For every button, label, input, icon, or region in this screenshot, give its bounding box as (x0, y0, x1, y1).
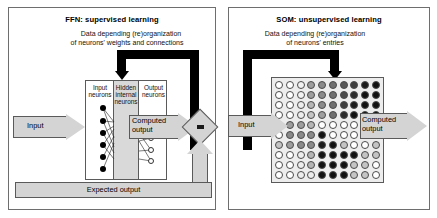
som-cell (306, 130, 317, 140)
som-neuron-dot (318, 81, 326, 89)
som-neuron-dot (286, 161, 294, 169)
som-neuron-dot (340, 141, 348, 149)
som-neuron-dot (340, 111, 348, 119)
som-neuron-dot (286, 91, 294, 99)
som-cell (360, 150, 371, 160)
som-neuron-dot (350, 81, 358, 89)
som-neuron-dot (340, 161, 348, 169)
som-neuron-dot (361, 151, 369, 159)
som-cell (317, 100, 328, 110)
som-neuron-dot (361, 81, 369, 89)
som-cell (338, 120, 349, 130)
som-cell (338, 170, 349, 180)
som-cell (295, 170, 306, 180)
som-cell (338, 80, 349, 90)
ffn-input-arrow: Input (13, 116, 85, 138)
som-neuron-dot (329, 101, 337, 109)
som-neuron-dot (307, 141, 315, 149)
som-cell (317, 80, 328, 90)
som-neuron-dot (350, 91, 358, 99)
som-neuron-dot (329, 151, 337, 159)
som-neuron-dot (372, 101, 380, 109)
som-neuron-dot (340, 131, 348, 139)
som-neuron-dot (340, 101, 348, 109)
som-cell (360, 140, 371, 150)
som-cell (274, 90, 285, 100)
som-cell (338, 130, 349, 140)
som-cell (317, 90, 328, 100)
som-neuron-dot (286, 151, 294, 159)
som-neuron-dot (286, 101, 294, 109)
som-cell (349, 150, 360, 160)
som-neuron-dot (318, 141, 326, 149)
som-cell (349, 80, 360, 90)
ffn-input-node (100, 118, 106, 124)
som-neuron-dot (329, 81, 337, 89)
som-neuron-dot (340, 121, 348, 129)
ffn-input-node (100, 154, 106, 160)
som-neuron-dot (318, 121, 326, 129)
som-neuron-dot (318, 151, 326, 159)
som-neuron-dot (361, 101, 369, 109)
som-cell (360, 80, 371, 90)
som-neuron-dot (329, 141, 337, 149)
ffn-input-node (100, 142, 106, 148)
som-neuron-dot (372, 171, 380, 179)
som-cell (327, 100, 338, 110)
som-neuron-dot (318, 91, 326, 99)
som-neuron-dot (286, 171, 294, 179)
som-cell (349, 130, 360, 140)
som-neuron-dot (372, 91, 380, 99)
panel-ffn-title: FFN: supervised learning (9, 15, 215, 24)
som-neuron-dot (307, 171, 315, 179)
som-neuron-dot (350, 151, 358, 159)
som-cell (370, 170, 381, 180)
som-neuron-dot (361, 161, 369, 169)
som-cell (327, 90, 338, 100)
som-cell (295, 130, 306, 140)
som-neuron-dot (372, 161, 380, 169)
som-cell (295, 110, 306, 120)
ffn-expected-feedback-arrow (188, 141, 212, 183)
som-cell (327, 140, 338, 150)
som-cell (349, 90, 360, 100)
som-neuron-dot (350, 121, 358, 129)
som-neuron-dot (318, 101, 326, 109)
som-neuron-dot (350, 161, 358, 169)
som-neuron-dot (307, 131, 315, 139)
som-neuron-dot (297, 141, 305, 149)
som-neuron-dot (350, 141, 358, 149)
som-cell (295, 140, 306, 150)
som-cell (327, 150, 338, 160)
comparator-equals-icon (197, 125, 204, 129)
som-cell (327, 80, 338, 90)
som-cell (370, 90, 381, 100)
som-cell (317, 120, 328, 130)
som-cell (327, 160, 338, 170)
som-neuron-dot (372, 151, 380, 159)
som-cell (306, 140, 317, 150)
som-cell (349, 140, 360, 150)
som-cell (349, 120, 360, 130)
som-cell (306, 110, 317, 120)
som-neuron-dot (361, 171, 369, 179)
som-neuron-dot (297, 151, 305, 159)
som-neuron-dot (350, 101, 358, 109)
som-cell (306, 90, 317, 100)
som-cell (360, 100, 371, 110)
som-neuron-dot (297, 131, 305, 139)
som-cell (370, 140, 381, 150)
som-cell (370, 150, 381, 160)
som-neuron-dot (297, 111, 305, 119)
ffn-computed-output-label-line2: output (132, 126, 153, 135)
som-neuron-dot (307, 161, 315, 169)
som-neuron-dot (329, 111, 337, 119)
som-neuron-dot (329, 121, 337, 129)
som-neuron-dot (307, 81, 315, 89)
som-cell (327, 130, 338, 140)
som-neuron-dot (361, 91, 369, 99)
som-cell (285, 160, 296, 170)
som-neuron-dot (372, 141, 380, 149)
som-neuron-dot (329, 171, 337, 179)
som-feedback-arrow-horizontal (243, 50, 339, 59)
